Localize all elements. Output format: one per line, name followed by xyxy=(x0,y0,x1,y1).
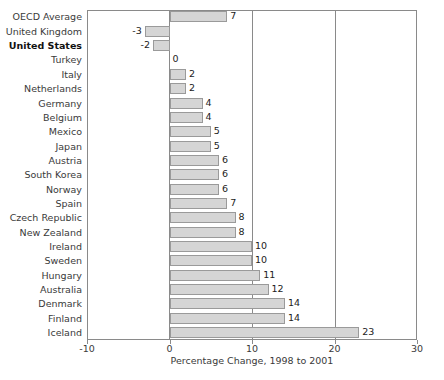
bar-value-label: -2 xyxy=(137,38,150,51)
category-label: Sweden xyxy=(0,254,82,268)
category-label: Ireland xyxy=(0,240,82,254)
bar-value-label: 8 xyxy=(239,225,245,238)
bar-row: 5 xyxy=(87,125,417,139)
bar xyxy=(170,270,261,281)
bar-row: 10 xyxy=(87,254,417,268)
bar xyxy=(170,227,236,238)
category-label: Austria xyxy=(0,154,82,168)
bar-row: 11 xyxy=(87,269,417,283)
bar-row: 6 xyxy=(87,154,417,168)
bar-row: -3 xyxy=(87,25,417,39)
bar-row: 2 xyxy=(87,68,417,82)
bar-value-label: 4 xyxy=(206,96,212,109)
bar-value-label: 14 xyxy=(288,311,300,324)
category-label: Iceland xyxy=(0,326,82,340)
category-label: OECD Average xyxy=(0,10,82,24)
category-label: Australia xyxy=(0,283,82,297)
bar-value-label: 2 xyxy=(189,81,195,94)
bar xyxy=(170,298,286,309)
category-label: Spain xyxy=(0,197,82,211)
category-label: Belgium xyxy=(0,111,82,125)
bar-value-label: 11 xyxy=(263,268,275,281)
bar-value-label: 6 xyxy=(222,182,228,195)
bar-row: 14 xyxy=(87,297,417,311)
bar-value-label: 8 xyxy=(239,210,245,223)
bar xyxy=(170,69,187,80)
bar xyxy=(170,184,220,195)
x-tick-label: 0 xyxy=(150,343,190,354)
bar-value-label: 7 xyxy=(230,196,236,209)
bar-row: 14 xyxy=(87,312,417,326)
bar-value-label: 6 xyxy=(222,153,228,166)
bar-row: 2 xyxy=(87,82,417,96)
category-axis-labels: OECD AverageUnited KingdomUnited StatesT… xyxy=(0,10,82,340)
bar-row: 4 xyxy=(87,111,417,125)
bar-value-label: -3 xyxy=(129,24,142,37)
bar-row: 6 xyxy=(87,168,417,182)
bar-value-label: 12 xyxy=(272,282,284,295)
x-tick-label: -10 xyxy=(67,343,107,354)
bar-row: 5 xyxy=(87,140,417,154)
bar xyxy=(170,284,269,295)
category-label: Japan xyxy=(0,140,82,154)
category-label: Norway xyxy=(0,183,82,197)
bar-row: 4 xyxy=(87,97,417,111)
category-label: Mexico xyxy=(0,125,82,139)
x-axis-title: Percentage Change, 1998 to 2001 xyxy=(87,355,417,366)
bar-row: 7 xyxy=(87,197,417,211)
bar xyxy=(153,40,170,51)
bar-value-label: 0 xyxy=(173,52,179,65)
bar-value-label: 10 xyxy=(255,239,267,252)
bar xyxy=(145,26,170,37)
category-label: Turkey xyxy=(0,53,82,67)
category-label: United States xyxy=(0,39,82,53)
x-tick-label: 10 xyxy=(232,343,272,354)
bar-row: 12 xyxy=(87,283,417,297)
bars-layer: 7-3-2022445566678810101112141423 xyxy=(87,10,417,340)
bar xyxy=(170,327,360,338)
category-label: Czech Republic xyxy=(0,211,82,225)
bar-value-label: 5 xyxy=(214,124,220,137)
category-label: Finland xyxy=(0,312,82,326)
category-label: Netherlands xyxy=(0,82,82,96)
bar-row: 23 xyxy=(87,326,417,340)
bar-row: 10 xyxy=(87,240,417,254)
bar xyxy=(170,212,236,223)
bar-value-label: 6 xyxy=(222,167,228,180)
bar-row: 7 xyxy=(87,10,417,24)
bar xyxy=(170,313,286,324)
x-tick-label: 20 xyxy=(315,343,355,354)
bar xyxy=(170,169,220,180)
bar xyxy=(170,141,211,152)
category-label: New Zealand xyxy=(0,226,82,240)
category-label: Hungary xyxy=(0,269,82,283)
category-label: Denmark xyxy=(0,297,82,311)
category-label: South Korea xyxy=(0,168,82,182)
bar-value-label: 4 xyxy=(206,110,212,123)
category-label: United Kingdom xyxy=(0,25,82,39)
bar-row: 6 xyxy=(87,183,417,197)
bar-row: 8 xyxy=(87,211,417,225)
bar-chart: OECD AverageUnited KingdomUnited StatesT… xyxy=(0,0,444,380)
bar-value-label: 2 xyxy=(189,67,195,80)
bar xyxy=(170,83,187,94)
bar-value-label: 14 xyxy=(288,296,300,309)
bar-value-label: 7 xyxy=(230,9,236,22)
bar-row: 0 xyxy=(87,53,417,67)
bar xyxy=(170,11,228,22)
bar-row: -2 xyxy=(87,39,417,53)
bar xyxy=(170,255,253,266)
bar-value-label: 5 xyxy=(214,139,220,152)
bar-row: 8 xyxy=(87,226,417,240)
bar xyxy=(170,198,228,209)
bar xyxy=(170,98,203,109)
bar xyxy=(170,241,253,252)
category-label: Italy xyxy=(0,68,82,82)
bar xyxy=(170,126,211,137)
x-tick-label: 30 xyxy=(397,343,437,354)
bar-value-label: 23 xyxy=(362,325,374,338)
bar-value-label: 10 xyxy=(255,253,267,266)
bar xyxy=(170,155,220,166)
bar xyxy=(170,112,203,123)
category-label: Germany xyxy=(0,97,82,111)
